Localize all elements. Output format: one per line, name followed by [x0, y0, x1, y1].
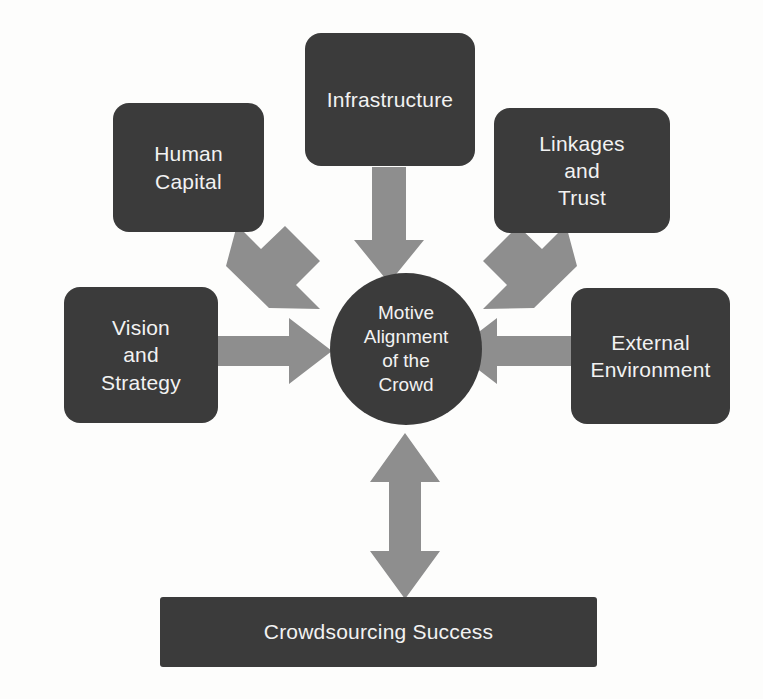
node-vision-and-strategy-label: Vision and Strategy [101, 314, 181, 396]
node-human-capital[interactable]: Human Capital [113, 103, 264, 232]
node-vision-and-strategy-line-3: Strategy [101, 369, 181, 396]
node-infrastructure[interactable]: Infrastructure [305, 33, 475, 166]
node-linkages-and-trust-line-3: Trust [539, 184, 625, 211]
node-external-environment-label: External Environment [590, 329, 710, 384]
node-motive-alignment-label: Motive Alignment of the Crowd [364, 301, 449, 397]
arrow-infrastructure-to-center [354, 167, 424, 283]
node-crowdsourcing-success[interactable]: Crowdsourcing Success [160, 597, 597, 667]
node-vision-and-strategy[interactable]: Vision and Strategy [64, 287, 218, 423]
arrow-center-to-crowdsourcing-success [370, 433, 440, 599]
node-linkages-and-trust-line-2: and [539, 157, 625, 184]
node-motive-alignment-line-2: Alignment [364, 325, 449, 349]
node-motive-alignment-of-the-crowd[interactable]: Motive Alignment of the Crowd [330, 273, 482, 425]
arrow-human-capital-to-center [226, 225, 320, 309]
node-motive-alignment-line-1: Motive [364, 301, 449, 325]
node-external-environment-line-2: Environment [590, 356, 710, 383]
node-vision-and-strategy-line-1: Vision [101, 314, 181, 341]
arrow-linkages-trust-to-center [483, 225, 577, 309]
node-motive-alignment-line-4: Crowd [364, 373, 449, 397]
node-external-environment[interactable]: External Environment [571, 288, 730, 424]
node-vision-and-strategy-line-2: and [101, 341, 181, 368]
arrow-vision-strategy-to-center [218, 318, 332, 384]
node-linkages-and-trust-line-1: Linkages [539, 130, 625, 157]
node-human-capital-label: Human Capital [154, 140, 223, 195]
node-infrastructure-label: Infrastructure [327, 86, 454, 113]
node-human-capital-line-2: Capital [154, 168, 223, 195]
node-crowdsourcing-success-label: Crowdsourcing Success [264, 618, 493, 645]
node-motive-alignment-line-3: of the [364, 349, 449, 373]
node-human-capital-line-1: Human [154, 140, 223, 167]
node-linkages-and-trust[interactable]: Linkages and Trust [494, 108, 670, 233]
node-external-environment-line-1: External [590, 329, 710, 356]
diagram-canvas: Infrastructure Human Capital Linkages an… [0, 0, 763, 699]
node-linkages-and-trust-label: Linkages and Trust [539, 130, 625, 212]
